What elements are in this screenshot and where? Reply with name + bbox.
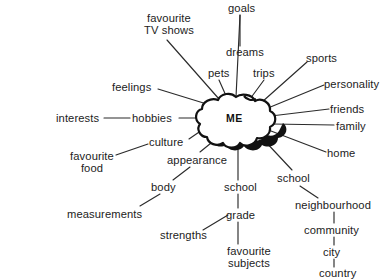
edge-body-measurements xyxy=(140,194,160,206)
node-school-right[interactable]: school xyxy=(277,172,310,184)
node-body[interactable]: body xyxy=(151,181,176,193)
edge-center-feelings xyxy=(158,89,210,105)
node-measurements[interactable]: measurements xyxy=(67,208,142,220)
node-friends[interactable]: friends xyxy=(330,103,364,115)
node-appearance[interactable]: appearance xyxy=(167,154,227,166)
node-city[interactable]: city xyxy=(323,246,340,258)
mindmap-page: { "diagram": { "title": "ME mind map", "… xyxy=(0,0,383,279)
node-goals[interactable]: goals xyxy=(228,2,255,14)
node-home[interactable]: home xyxy=(327,147,355,159)
node-favourite-tv-shows[interactable]: favouriteTV shows xyxy=(126,12,212,37)
node-feelings[interactable]: feelings xyxy=(112,81,151,93)
node-community[interactable]: community xyxy=(304,224,359,236)
edge-center-family xyxy=(272,124,334,125)
edge-schoolright-neigh xyxy=(300,186,318,198)
node-country[interactable]: country xyxy=(319,267,356,279)
node-strengths[interactable]: strengths xyxy=(160,229,207,241)
node-culture[interactable]: culture xyxy=(149,136,183,148)
node-pets[interactable]: pets xyxy=(208,67,230,79)
edge-appearance-body xyxy=(173,167,190,180)
node-favourite-subjects[interactable]: favouritesubjects xyxy=(218,245,280,270)
node-sports[interactable]: sports xyxy=(306,52,337,64)
node-hobbies[interactable]: hobbies xyxy=(132,112,172,124)
node-trips[interactable]: trips xyxy=(253,67,275,79)
node-school-center[interactable]: school xyxy=(224,181,257,193)
center-node-label: ME xyxy=(226,112,243,124)
node-favourite-food[interactable]: favouritefood xyxy=(64,150,120,175)
node-dreams[interactable]: dreams xyxy=(226,46,264,58)
node-neighbourhood[interactable]: neighbourhood xyxy=(295,199,371,211)
node-personality[interactable]: personality xyxy=(324,78,379,90)
node-family[interactable]: family xyxy=(336,120,366,132)
node-interests[interactable]: interests xyxy=(56,112,99,124)
edge-grade-strengths xyxy=(203,215,228,230)
edge-culture-favfood xyxy=(116,144,148,155)
edge-center-friends xyxy=(271,109,329,116)
node-grade[interactable]: grade xyxy=(226,209,255,221)
